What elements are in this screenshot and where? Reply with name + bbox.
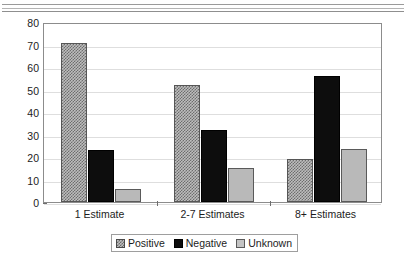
legend-label: Negative [186, 237, 227, 249]
x-tick-label: 1 Estimate [43, 208, 156, 220]
x-tick-label: 2-7 Estimates [156, 208, 269, 220]
y-tick-label: 0 [9, 198, 39, 208]
x-tick-label: 8+ Estimates [269, 208, 382, 220]
y-tick-label: 60 [9, 63, 39, 73]
bar-negative [314, 76, 340, 202]
x-axis-labels: 1 Estimate2-7 Estimates8+ Estimates [43, 208, 382, 224]
bar-positive [287, 159, 313, 202]
y-tick-label: 10 [9, 176, 39, 186]
legend-swatch-unknown-icon [236, 239, 245, 248]
plot-area [43, 23, 382, 203]
bar-group [157, 24, 270, 202]
bar-negative [201, 130, 227, 202]
bar-group [270, 24, 383, 202]
plot-inner [44, 24, 381, 202]
gridline [44, 204, 381, 205]
y-axis-ticks: 80706050403020100 [6, 23, 39, 203]
bar-positive [61, 43, 87, 202]
bar-unknown [115, 189, 141, 202]
bar-positive [174, 85, 200, 202]
legend-swatch-positive-icon [116, 239, 125, 248]
bar-group [44, 24, 157, 202]
y-tick-label: 40 [9, 108, 39, 118]
category-separator [157, 201, 158, 206]
chart-legend: PositiveNegativeUnknown [111, 234, 298, 252]
bar-unknown [228, 168, 254, 202]
y-tick-label: 80 [9, 18, 39, 28]
legend-item-unknown[interactable]: Unknown [236, 237, 292, 249]
bar-unknown [341, 149, 367, 202]
legend-item-negative[interactable]: Negative [174, 237, 227, 249]
y-tick-label: 20 [9, 153, 39, 163]
bar-negative [88, 150, 114, 202]
legend-label: Unknown [248, 237, 292, 249]
category-separator [270, 201, 271, 206]
legend-swatch-negative-icon [174, 239, 183, 248]
y-tick-label: 50 [9, 86, 39, 96]
legend-item-positive[interactable]: Positive [116, 237, 165, 249]
y-tick-label: 30 [9, 131, 39, 141]
y-tick-label: 70 [9, 41, 39, 51]
bar-chart: Average percent 80706050403020100 1 Esti… [0, 0, 406, 263]
legend-label: Positive [128, 237, 165, 249]
